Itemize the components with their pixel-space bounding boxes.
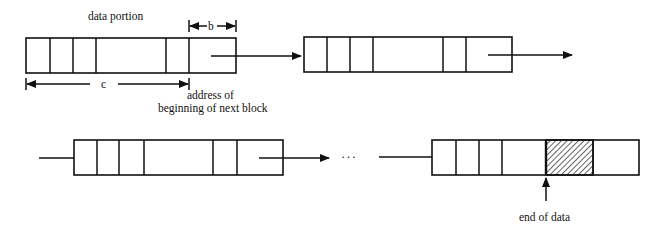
block-1 xyxy=(26,38,236,73)
b-dimension: b xyxy=(189,20,236,32)
address-label-line2: beginning of next block xyxy=(158,102,268,115)
c-label: c xyxy=(101,78,106,90)
block-4 xyxy=(432,140,639,175)
address-label-line1: address of xyxy=(187,89,234,101)
b-label: b xyxy=(208,20,214,32)
end-of-data-label: end of data xyxy=(519,211,570,223)
data-portion-label: data portion xyxy=(88,10,143,23)
hatched-region xyxy=(546,140,593,175)
ellipsis: ··· xyxy=(341,149,357,164)
c-dimension: c xyxy=(26,78,189,90)
block-3 xyxy=(74,140,283,175)
block-2 xyxy=(304,37,512,72)
linked-blocks-diagram: data portion b c address of beginning of… xyxy=(0,0,665,235)
